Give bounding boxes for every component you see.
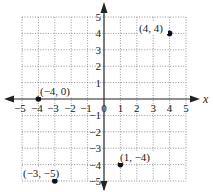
x-tick: 5 (183, 102, 189, 114)
y-tick: −5 (89, 175, 101, 187)
y-tick: 3 (96, 44, 102, 56)
point-label-4-4: (4, 4) (139, 22, 163, 35)
y-tick: −4 (89, 159, 101, 171)
point-neg4-0 (36, 96, 42, 102)
x-tick: 4 (167, 102, 173, 114)
x-tick: −2 (64, 102, 76, 114)
y-tick: 2 (96, 60, 102, 72)
x-tick: −5 (14, 102, 26, 114)
point-neg3-neg5 (52, 178, 58, 184)
point-label-neg4-0: (−4, 0) (40, 85, 70, 98)
y-axis-up-arrow-icon (101, 2, 108, 13)
x-axis-label: x (202, 92, 209, 106)
y-tick: −1 (89, 109, 101, 121)
x-tick: −4 (31, 102, 43, 114)
x-tick: 2 (134, 102, 140, 114)
x-tick-labels: −5 −4 −3 −2 −1 0 1 2 3 4 5 (14, 102, 189, 114)
x-axis-left-arrow-icon (4, 96, 14, 103)
y-tick: 1 (96, 77, 102, 89)
x-tick: −3 (47, 102, 59, 114)
y-tick: 5 (96, 11, 102, 23)
x-tick: 1 (118, 102, 124, 114)
point-label-1-neg4: (1, −4) (120, 151, 150, 164)
y-tick: 4 (96, 27, 102, 39)
y-tick: −2 (89, 126, 101, 138)
y-axis-down-arrow-icon (101, 181, 108, 191)
x-axis-right-arrow-icon (190, 96, 200, 103)
axes (4, 2, 200, 191)
origin-label: 0 (101, 102, 107, 114)
x-tick: 3 (150, 102, 156, 114)
point-label-neg3-neg5: (−3, −5) (23, 167, 60, 180)
coordinate-plane: x −5 −4 −3 −2 −1 0 1 2 3 4 5 1 2 3 4 5 −… (0, 0, 213, 192)
y-tick: −3 (89, 142, 101, 154)
